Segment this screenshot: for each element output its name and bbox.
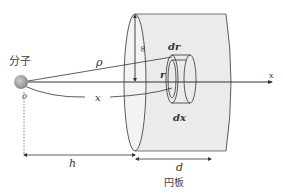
d-label: d (176, 161, 183, 174)
molecule-plate-diagram: 分子 0 ρ x ∞ dr r dx x h d 円板 (0, 0, 283, 196)
h-dimension (23, 153, 136, 157)
x-curve-label: x (95, 92, 101, 103)
r-label: r (160, 69, 166, 80)
rho-label: ρ (95, 56, 103, 69)
molecule-sphere (14, 75, 28, 89)
plate-label: 円板 (164, 176, 184, 188)
dx-label: dx (173, 112, 187, 123)
x-curve-left (22, 85, 85, 97)
x-axis-label: x (269, 71, 274, 80)
d-dimension (135, 157, 212, 161)
dr-label: dr (168, 41, 181, 52)
h-label: h (69, 157, 76, 170)
infinity-label: ∞ (138, 45, 148, 53)
molecule-label: 分子 (9, 55, 31, 68)
origin-label: 0 (22, 92, 27, 101)
